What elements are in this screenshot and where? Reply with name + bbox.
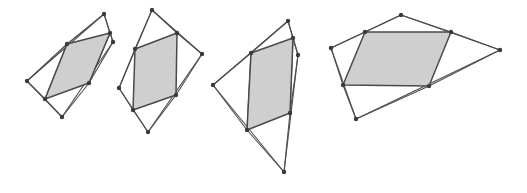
- vertex-dot: [65, 42, 69, 46]
- figure-1: [25, 12, 115, 119]
- vertex-dot: [25, 79, 29, 83]
- vertex-dot: [133, 47, 137, 51]
- vertex-dot: [399, 13, 403, 17]
- vertex-dot: [286, 19, 290, 23]
- vertex-dot: [43, 97, 47, 101]
- figure-3: [211, 19, 300, 174]
- vertex-dot: [449, 30, 453, 34]
- vertex-dot: [291, 36, 295, 40]
- vertex-dot: [175, 31, 179, 35]
- inner-shaded-quadrilateral: [133, 33, 177, 110]
- geometry-figure-canvas: [0, 0, 527, 193]
- vertex-dot: [150, 8, 154, 12]
- vertex-dot: [131, 108, 135, 112]
- figure-4: [329, 13, 502, 121]
- panels-group: [25, 8, 502, 174]
- vertex-dot: [111, 40, 115, 44]
- vertex-dot: [60, 115, 64, 119]
- vertex-dot: [174, 93, 178, 97]
- vertex-dot: [296, 53, 300, 57]
- vertex-dot: [108, 31, 112, 35]
- figure-2: [117, 8, 204, 134]
- vertex-dot: [288, 111, 292, 115]
- vertex-dot: [102, 12, 106, 16]
- inner-shaded-quadrilateral: [45, 33, 110, 99]
- vertex-dot: [329, 46, 333, 50]
- vertex-dot: [245, 128, 249, 132]
- vertex-dot: [200, 52, 204, 56]
- inner-shaded-quadrilateral: [343, 32, 451, 86]
- inner-shaded-quadrilateral: [247, 38, 293, 130]
- vertex-dot: [249, 51, 253, 55]
- vertex-dot: [341, 83, 345, 87]
- vertex-dot: [211, 83, 215, 87]
- vertex-dot: [363, 30, 367, 34]
- vertex-dot: [354, 117, 358, 121]
- vertex-dot: [117, 86, 121, 90]
- vertex-dot: [146, 130, 150, 134]
- vertex-dot: [282, 170, 286, 174]
- vertex-dot: [87, 81, 91, 85]
- vertex-dot: [427, 84, 431, 88]
- vertex-dot: [498, 48, 502, 52]
